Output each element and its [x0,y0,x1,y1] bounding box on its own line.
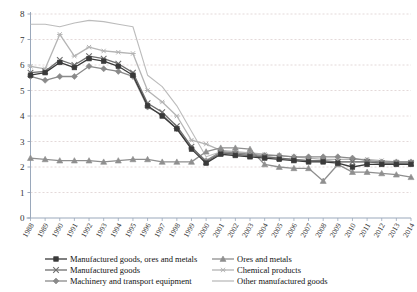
marker-diamond [115,68,121,74]
marker-square [160,114,165,119]
x-tick-label-2014: 2014 [401,221,416,239]
marker-square [87,56,92,61]
x-tick-label-2003: 2003 [240,221,255,239]
x-tick-label-1996: 1996 [138,221,153,239]
x-tick-label-2012: 2012 [372,221,387,239]
marker-square [204,161,209,166]
x-tick-label-1990: 1990 [50,221,65,239]
legend-label-left-1: Manufactured goods [70,265,140,275]
series-line [31,20,412,164]
marker-square [145,104,150,109]
x-tick-label-2005: 2005 [269,221,284,239]
marker-square [189,147,194,152]
marker-asterisk [220,268,226,272]
marker-asterisk [86,45,92,49]
y-tick-label-4: 4 [20,111,25,121]
marker-square [54,257,59,262]
x-tick-label-2010: 2010 [342,221,357,239]
x-tick-label-1995: 1995 [123,221,138,239]
y-tick-label-5: 5 [20,86,25,96]
marker-diamond [53,278,59,284]
marker-asterisk [159,100,165,104]
legend-label-left-2: Machinery and transport equipment [70,276,192,286]
x-tick-label-1992: 1992 [79,221,94,239]
x-tick-label-1997: 1997 [152,221,167,239]
legend-label-right-0: Ores and metals [237,254,292,264]
legend-label-right-1: Chemical products [237,265,301,275]
x-tick-label-1991: 1991 [64,221,79,239]
marker-square [277,157,282,162]
x-tick-label-2000: 2000 [196,221,211,239]
y-tick-label-7: 7 [20,35,25,45]
y-tick-label-1: 1 [20,188,25,198]
marker-asterisk [116,50,122,54]
marker-square [131,73,136,78]
marker-square [379,162,384,167]
series-other-manufactured-goods [31,20,412,164]
x-tick-label-2008: 2008 [313,221,328,239]
marker-square [262,156,267,161]
x-tick-label-2004: 2004 [255,221,270,239]
marker-square [218,152,223,157]
marker-square [57,60,62,65]
x-tick-label-2001: 2001 [211,221,226,239]
marker-diamond [42,77,48,83]
x-tick-label-1999: 1999 [181,221,196,239]
x-tick-label-1988: 1988 [20,221,35,239]
marker-square [116,64,121,69]
x-tick-label-2013: 2013 [386,221,401,239]
marker-square [409,162,414,167]
x-tick-label-2009: 2009 [328,221,343,239]
marker-square [175,126,180,131]
marker-square [321,160,326,165]
marker-diamond [101,66,107,72]
marker-square [233,153,238,158]
marker-square [350,165,355,170]
x-tick-label-1998: 1998 [167,221,182,239]
y-tick-label-6: 6 [20,60,25,70]
marker-square [394,162,399,167]
chart-canvas: 0123456781988198919901991199219931994199… [0,0,417,292]
marker-square [43,70,48,75]
marker-square [72,65,77,70]
marker-square [336,161,341,166]
marker-square [28,73,33,78]
marker-asterisk [72,54,78,58]
y-tick-label-0: 0 [20,213,25,223]
x-tick-label-2006: 2006 [284,221,299,239]
marker-diamond [57,73,63,79]
legend-label-right-2: Other manufactured goods [237,276,328,286]
series-manufactured-goods-ores-and-metals [28,56,413,169]
series-line [31,34,412,161]
marker-square [292,158,297,163]
legend-label-left-0: Manufactured goods, ores and metals [70,254,197,264]
x-tick-label-1989: 1989 [35,221,50,239]
marker-square [101,59,106,64]
marker-square [365,162,370,167]
y-tick-label-3: 3 [20,137,25,147]
marker-asterisk [174,114,180,118]
marker-square [248,155,253,160]
series-machinery-and-transport-equipment [28,63,415,165]
x-tick-label-2007: 2007 [298,221,313,239]
y-tick-label-2: 2 [20,162,25,172]
x-tick-label-2002: 2002 [225,221,240,239]
x-tick-label-2011: 2011 [357,221,372,238]
marker-asterisk [203,142,209,146]
x-tick-label-1994: 1994 [108,221,123,239]
y-tick-label-8: 8 [20,9,25,19]
chart-legend: Manufactured goods, ores and metalsManuf… [45,254,328,286]
x-tick-label-1993: 1993 [94,221,109,239]
marker-asterisk [101,49,107,53]
marker-square [306,160,311,165]
line-chart: 0123456781988198919901991199219931994199… [0,0,417,292]
